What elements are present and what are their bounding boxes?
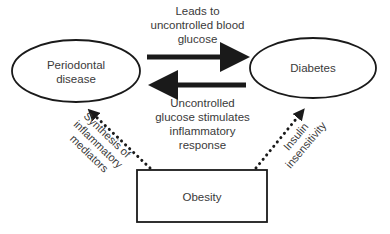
edge-label-line: Leads to	[140, 4, 255, 18]
edge-label-line: inflammatory	[140, 124, 265, 138]
obesity-label: Obesity	[152, 190, 252, 204]
edge-label-leads-to: Leads to uncontrolled blood glucose	[140, 4, 255, 46]
periodontal-line1: Periodontal	[26, 58, 126, 72]
edge-label-line: Uncontrolled	[140, 96, 265, 110]
edge-label-uncontrolled-glucose: Uncontrolled glucose stimulates inflamma…	[140, 96, 265, 152]
periodontal-disease-label: Periodontal disease	[26, 58, 126, 86]
edge-label-line: glucose stimulates	[140, 110, 265, 124]
edge-label-line: uncontrolled blood	[140, 18, 255, 32]
edge-label-line: response	[140, 138, 265, 152]
periodontal-line2: disease	[26, 72, 126, 86]
edge-label-line: glucose	[140, 32, 255, 46]
diabetes-label: Diabetes	[263, 61, 363, 75]
